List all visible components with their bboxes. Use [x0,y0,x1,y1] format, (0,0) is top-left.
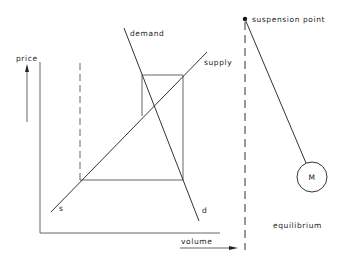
demand-label: demand [130,29,164,38]
supply-label: supply [204,58,232,67]
supply-demand-pendulum-diagram: price demand d supply s volume suspensio… [0,0,344,262]
supply-curve [51,52,207,212]
pendulum: suspension point M equilibrium [243,15,327,250]
equilibrium-caption: equilibrium [273,221,322,230]
demand-curve [124,28,199,221]
pendulum-rod [245,19,306,163]
demand-end-label: d [202,206,207,215]
price-label: price [16,54,38,63]
mass-label: M [308,173,315,182]
suspension-point-label: suspension point [252,15,325,24]
volume-label: volume [181,237,212,246]
market-chart: price demand d supply s volume [16,28,238,250]
volume-arrow-icon [180,246,238,250]
price-arrow-icon [25,64,29,122]
supply-end-label: s [59,204,64,213]
